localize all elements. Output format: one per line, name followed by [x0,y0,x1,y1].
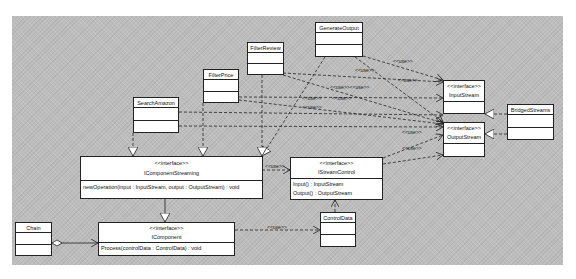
interface-header: <<interface>> IComponentStreaming [81,157,262,180]
class-filter-price[interactable]: FilterPrice [203,69,239,103]
operations-section: Process(controlData : ControlData) : voi… [99,242,234,255]
operations-section [444,101,484,113]
class-filter-review[interactable]: FilterReview [247,42,284,75]
use-label-5: <<use>> [302,95,322,101]
use-label-8: <<use>> [402,129,422,135]
use-label-9: <<use>> [402,145,422,151]
relationship-lines [0,0,576,279]
class-name: ControlData [321,213,355,222]
stereotype: <<interface>> [444,83,484,89]
attributes-section [204,79,238,91]
operations-section [16,244,51,256]
interface-name: OutputStream [444,131,484,143]
interface-icomponent[interactable]: <<interface>> IComponent Process(control… [98,222,235,256]
attributes-section [248,52,283,63]
operations-section [316,44,362,56]
class-name: Chain [16,223,51,232]
use-label-7: <<use>> [302,104,322,110]
interface-istream-control[interactable]: <<interface>> IStreamControl Input() : I… [290,157,383,200]
attributes-section [16,232,51,244]
use-label-3: <<use>> [398,77,418,83]
use-label-1: <<use>> [393,58,413,64]
interface-name: IComponent [99,231,234,242]
attributes-section [321,222,355,234]
interface-header: <<interface>> OutputStream [444,123,484,143]
class-chain[interactable]: Chain [15,222,52,256]
attributes-section [508,114,553,127]
use-label-6: <<use>> [332,95,352,101]
class-bridged-streams[interactable]: BridgedStreams [507,104,554,140]
interface-name: InputStream [444,89,484,101]
interface-input-stream[interactable]: <<interface>> InputStream [443,80,485,114]
operation: Output() : OutputStream [293,189,380,198]
class-name: FilterPrice [204,70,238,79]
interface-output-stream[interactable]: <<interface>> OutputStream [443,122,485,157]
attributes-section [316,32,362,44]
stereotype: <<interface>> [444,125,484,131]
class-name: FilterReview [248,43,283,52]
operations-section [134,120,178,133]
operations-section [204,91,238,103]
interface-name: IStreamControl [291,166,382,178]
interface-header: <<interface>> IComponent [99,223,234,242]
operations-section [248,63,283,74]
class-name: GenerateOutput [316,23,362,32]
interface-header: <<interface>> InputStream [444,81,484,101]
operations-section [444,143,484,156]
operation: Input() : InputStream [293,180,380,189]
operation: Process(controlData : ControlData) : voi… [101,244,232,253]
operation: newOperation(input : InputStream, output… [83,183,260,192]
use-label-11: <<use>> [267,224,287,230]
class-control-data[interactable]: ControlData [320,212,356,247]
class-name: SearchAmazon [134,98,178,107]
operations-section: Input() : InputStream Output() : OutputS… [291,178,382,199]
interface-header: <<interface>> IStreamControl [291,158,382,178]
operations-section [321,234,355,246]
attributes-section [134,107,178,120]
class-generate-output[interactable]: GenerateOutput [315,22,363,57]
operations-section: newOperation(input : InputStream, output… [81,180,262,198]
use-label-2: <<use>> [355,67,375,73]
interface-icomponent-streaming[interactable]: <<interface>> IComponentStreaming newOpe… [80,156,263,199]
class-name: BridgedStreams [508,105,553,114]
use-label-10: <<use>> [265,163,285,169]
operations-section [508,127,553,140]
use-label-4: <<use>><<use>> [330,84,369,90]
interface-name: IComponentStreaming [81,166,262,180]
class-search-amazon[interactable]: SearchAmazon [133,97,179,133]
